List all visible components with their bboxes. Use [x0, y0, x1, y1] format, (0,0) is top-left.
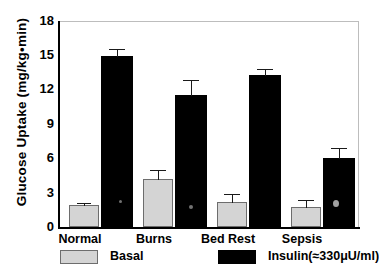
error-bar-normal-basal [84, 204, 85, 206]
bar-group-bed-rest [213, 22, 285, 227]
x-axis-line [58, 227, 360, 229]
y-tick-label-6: 6 [32, 151, 54, 164]
error-bar-burns-insulin [191, 81, 192, 96]
artifact-speck [119, 200, 122, 203]
bar-burns-basal[interactable] [143, 179, 173, 227]
y-axis-title: Glucose Uptake (mg/kg•min) [14, 4, 34, 220]
error-bar-normal-insulin [117, 50, 118, 57]
legend: Basal Insulin(≈330μU/ml) [0, 248, 378, 272]
bars-container [59, 22, 358, 227]
error-bar-sepsis-insulin [339, 149, 340, 159]
x-tick-label-normal: Normal [44, 232, 116, 246]
bar-group-sepsis [287, 22, 359, 227]
bar-bed-rest-basal[interactable] [217, 202, 247, 227]
error-bar-bed-rest-insulin [265, 70, 266, 76]
y-tick-label-15: 15 [32, 48, 54, 61]
y-tick-label-3: 3 [32, 186, 54, 199]
artifact-speck [189, 205, 193, 209]
error-cap-normal-basal [77, 203, 91, 204]
error-cap-normal-insulin [109, 49, 125, 50]
x-tick-label-burns: Burns [118, 232, 190, 246]
bar-normal-insulin[interactable] [101, 56, 133, 227]
bar-group-normal [65, 22, 137, 227]
legend-label-basal: Basal [110, 249, 143, 263]
error-cap-bed-rest-insulin [257, 69, 273, 70]
error-cap-sepsis-insulin [331, 148, 347, 149]
error-bar-burns-basal [158, 171, 159, 180]
legend-swatch-basal [60, 250, 98, 264]
y-tick-label-12: 12 [32, 82, 54, 95]
bar-sepsis-basal[interactable] [291, 207, 321, 227]
y-axis-line [58, 21, 60, 229]
error-cap-sepsis-basal [298, 200, 314, 201]
error-cap-bed-rest-basal [224, 194, 240, 195]
artifact-speck [333, 200, 339, 207]
x-tick-label-sepsis: Sepsis [266, 232, 338, 246]
error-bar-bed-rest-basal [232, 195, 233, 202]
bar-normal-basal[interactable] [69, 205, 99, 227]
bar-bed-rest-insulin[interactable] [249, 75, 281, 227]
legend-label-insulin: Insulin(≈330μU/ml) [268, 249, 379, 263]
plot-area [58, 21, 359, 228]
error-cap-burns-basal [150, 170, 166, 171]
error-cap-burns-insulin [183, 80, 199, 81]
error-bar-sepsis-basal [306, 201, 307, 208]
y-tick-label-18: 18 [32, 14, 54, 27]
y-tick-label-9: 9 [32, 117, 54, 130]
bar-group-burns [139, 22, 211, 227]
legend-swatch-insulin [218, 250, 256, 264]
bar-sepsis-insulin[interactable] [323, 158, 355, 227]
x-tick-label-bed-rest: Bed Rest [192, 232, 264, 246]
